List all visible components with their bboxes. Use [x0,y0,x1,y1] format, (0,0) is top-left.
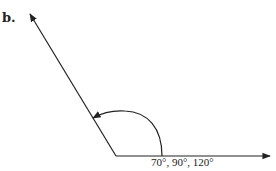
upper-left-ray [30,14,116,156]
rotation-arc-arrow [93,111,162,156]
angle-diagram [0,0,276,171]
angle-caption: 70°, 90°, 120° [151,156,214,168]
